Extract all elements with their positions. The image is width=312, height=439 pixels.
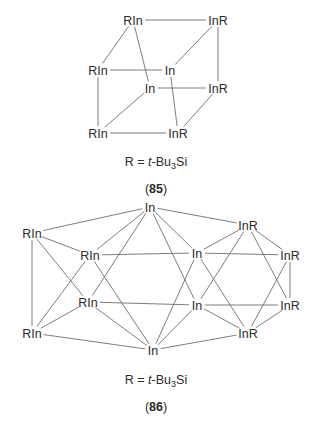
indium-atom-label: RIn: [123, 14, 143, 28]
indium-atom-label: RIn: [80, 249, 100, 263]
bond-line: [105, 93, 145, 127]
substituent-definition-86: R = t-Bu3Si: [125, 373, 187, 389]
indium-atom-label: RIn: [22, 327, 42, 341]
bond-line: [156, 260, 194, 344]
indium-atom-label: InR: [238, 327, 257, 341]
bond-line: [100, 302, 189, 305]
indium-atom-label: InR: [280, 249, 299, 263]
bond-line: [42, 237, 80, 251]
bond-line: [161, 335, 237, 349]
bond-line: [201, 232, 244, 299]
indium-atom-label: InR: [238, 219, 257, 233]
indium-atom-label: InR: [208, 14, 227, 28]
indium-atom-label: InR: [280, 299, 299, 313]
bond-line: [102, 253, 189, 255]
indium-atom-label: InR: [168, 127, 187, 141]
indium-cluster-diagram: RInInRRInInInInRRInInR R = t-Bu3Si (85) …: [0, 0, 312, 439]
bond-line: [158, 208, 237, 223]
bond-line: [201, 259, 244, 326]
bond-line: [41, 307, 80, 328]
bond-line: [256, 310, 282, 327]
cube-cluster-85-bonds: [98, 20, 218, 133]
substituent-definition-85: R = t-Bu3Si: [125, 155, 187, 171]
cluster-86-atoms: InRInRInInInRInRRInInInRRInInInR: [22, 201, 299, 358]
bond-line: [252, 262, 287, 327]
bond-line: [171, 77, 177, 126]
bond-line: [95, 308, 146, 346]
indium-atom-label: RIn: [88, 127, 108, 141]
bond-line: [43, 209, 142, 231]
indium-atom-label: In: [192, 299, 202, 313]
compound-number-86: (86): [145, 400, 167, 414]
indium-atom-label: In: [145, 82, 155, 96]
bond-line: [184, 94, 213, 127]
indium-atom-label: In: [192, 247, 202, 261]
bond-line: [103, 27, 129, 64]
bond-line: [205, 253, 278, 255]
indium-atom-label: In: [165, 64, 175, 78]
indium-atom-label: RIn: [78, 296, 98, 310]
bond-line: [44, 335, 145, 349]
compound-number-85: (85): [145, 182, 167, 196]
bond-line: [252, 232, 287, 299]
indium-atom-label: RIn: [88, 64, 108, 78]
indium-atom-label: InR: [208, 82, 227, 96]
indium-atom-label: In: [148, 344, 158, 358]
bond-line: [135, 27, 149, 81]
bond-line: [37, 239, 83, 295]
cube-cluster-85-atoms: RInInRRInInInInRRInInR: [88, 14, 227, 141]
bond-line: [153, 214, 194, 299]
indium-atom-label: RIn: [22, 227, 42, 241]
bond-line: [175, 26, 212, 65]
indium-atom-label: In: [145, 201, 155, 215]
